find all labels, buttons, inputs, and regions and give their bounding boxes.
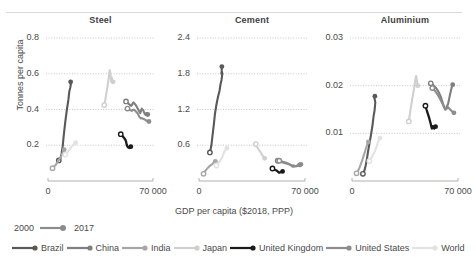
- legend-swatch-india: [122, 243, 150, 253]
- legend-year-swatch: [39, 223, 69, 233]
- legend-item-united-states[interactable]: United States: [326, 242, 409, 253]
- y-tick-label: 0.03: [309, 32, 343, 42]
- marker-2017-united-states: [452, 110, 457, 115]
- legend-label-india: India: [151, 243, 171, 253]
- marker-2017-world: [224, 146, 229, 151]
- legend-year-start: 2000: [14, 223, 34, 233]
- legend-item-brazil[interactable]: Brazil: [12, 242, 64, 253]
- marker-2017-china: [145, 112, 150, 117]
- series-line-world: [369, 138, 379, 161]
- marker-2000-united-kingdom: [270, 166, 274, 170]
- legend-label-world: World: [441, 243, 464, 253]
- y-tick-label: 1.2: [156, 104, 190, 114]
- legend-item-india[interactable]: India: [122, 242, 171, 253]
- marker-2000-united-states: [125, 106, 129, 110]
- marker-2017-united-kingdom: [128, 144, 133, 149]
- legend-label-china: China: [96, 243, 120, 253]
- marker-2000-united-kingdom: [119, 132, 123, 136]
- marker-2000-world: [214, 163, 218, 167]
- marker-2000-india: [354, 171, 358, 175]
- legend-item-united-kingdom[interactable]: United Kingdom: [230, 242, 323, 253]
- marker-2000-united-states: [277, 159, 281, 163]
- marker-2000-japan: [254, 142, 258, 146]
- marker-2017-united-states: [299, 162, 304, 167]
- marker-2017-japan: [262, 156, 267, 161]
- marker-2017-brazil: [219, 64, 224, 69]
- legend-label-japan: Japan: [203, 243, 228, 253]
- marker-2000-japan: [407, 119, 411, 123]
- y-tick-label: 1.8: [156, 68, 190, 78]
- marker-2017-india: [62, 147, 67, 152]
- series-line-japan: [409, 76, 418, 121]
- series-line-world: [216, 148, 226, 165]
- marker-2017-china: [450, 82, 455, 87]
- marker-2000-china: [429, 81, 433, 85]
- marker-2017-japan: [415, 83, 420, 88]
- y-tick-label: 0.2: [5, 139, 39, 149]
- legend-item-china[interactable]: China: [67, 242, 120, 253]
- marker-2017-united-kingdom: [433, 124, 438, 129]
- legend-year-end: 2017: [74, 223, 94, 233]
- x-tick-label: 0: [177, 186, 221, 196]
- y-tick-label: 0.02: [309, 80, 343, 90]
- marker-2017-japan: [111, 79, 116, 84]
- marker-2017-brazil: [68, 79, 73, 84]
- y-tick-label: 2.4: [156, 32, 190, 42]
- marker-2017-world: [73, 140, 78, 145]
- legend-year-row: 20002017: [14, 222, 476, 238]
- x-tick-label: 0: [26, 186, 70, 196]
- y-tick-label: 0.4: [5, 104, 39, 114]
- y-tick-label: 0.6: [156, 139, 190, 149]
- legend-swatch-united-kingdom: [230, 243, 258, 253]
- x-tick-label: 70 000: [283, 186, 327, 196]
- legend-item-japan[interactable]: Japan: [174, 242, 228, 253]
- marker-2000-india: [201, 172, 205, 176]
- y-tick-label: 0.6: [5, 68, 39, 78]
- legend-swatch-brazil: [12, 243, 40, 253]
- marker-2000-japan: [102, 103, 106, 107]
- marker-2000-united-kingdom: [423, 103, 427, 107]
- marker-2017-brazil: [372, 94, 377, 99]
- marker-2000-united-states: [430, 86, 434, 90]
- marker-2000-brazil: [208, 150, 212, 154]
- legend-label-united-kingdom: United Kingdom: [259, 243, 323, 253]
- y-tick-label: 0.8: [5, 32, 39, 42]
- marker-2017-united-kingdom: [280, 169, 285, 174]
- x-tick-label: 70 000: [436, 186, 476, 196]
- marker-2017-world: [377, 136, 382, 141]
- series-line-japan: [104, 70, 113, 105]
- legend-swatch-united-states: [326, 243, 354, 253]
- legend-swatch-world: [412, 243, 440, 253]
- marker-2017-india: [366, 140, 371, 145]
- marker-2000-india: [50, 166, 54, 170]
- x-tick-label: 70 000: [131, 186, 175, 196]
- marker-2000-brazil: [361, 172, 365, 176]
- legend-swatch-japan: [174, 243, 202, 253]
- marker-2000-china: [124, 99, 128, 103]
- marker-2017-united-states: [147, 119, 152, 124]
- x-tick-label: 0: [330, 186, 374, 196]
- legend-item-world[interactable]: World: [412, 242, 464, 253]
- legend-series-row: BrazilChinaIndiaJapanUnited KingdomUnite…: [12, 242, 476, 258]
- legend-label-united-states: United States: [355, 243, 409, 253]
- legend-swatch-china: [67, 243, 95, 253]
- y-tick-label: 0.01: [309, 127, 343, 137]
- marker-2000-world: [63, 152, 67, 156]
- legend-label-brazil: Brazil: [41, 243, 64, 253]
- marker-2000-world: [367, 159, 371, 163]
